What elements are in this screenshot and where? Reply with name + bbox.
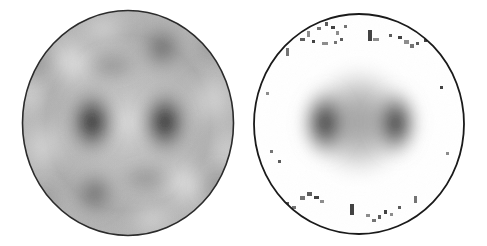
speckle-artifact — [278, 160, 281, 163]
speckle-artifact — [398, 36, 402, 39]
speckle-artifact — [398, 206, 401, 209]
speckle-artifact — [325, 22, 328, 26]
speckle-artifact — [366, 214, 370, 217]
speckle-artifact — [368, 30, 372, 41]
measured-pattern-plot — [243, 0, 487, 246]
speckle-artifact — [378, 215, 381, 219]
speckle-artifact — [372, 219, 376, 222]
speckle-artifact — [322, 42, 328, 45]
speckle-artifact — [314, 196, 319, 199]
speckle-artifact — [410, 44, 414, 48]
speckle-artifact — [416, 42, 419, 45]
grain-overlay — [243, 0, 487, 246]
speckle-artifact — [320, 200, 324, 203]
speckle-artifact — [317, 27, 321, 30]
speckle-artifact — [384, 210, 387, 214]
figure-root — [0, 0, 487, 246]
speckle-artifact — [389, 34, 392, 37]
speckle-artifact — [307, 192, 312, 196]
speckle-artifact — [300, 38, 305, 41]
speckle-artifact — [373, 38, 379, 41]
panel-measured-pattern — [243, 0, 487, 246]
speckle-artifact — [344, 25, 347, 28]
speckle-artifact — [334, 41, 337, 44]
speckle-artifact — [350, 204, 354, 215]
grain-overlay — [0, 0, 244, 246]
speckle-artifact — [340, 38, 343, 41]
speckle-artifact — [300, 196, 305, 200]
speckle-artifact — [414, 196, 417, 203]
speckle-artifact — [286, 48, 289, 56]
speckle-artifact — [440, 86, 443, 89]
speckle-artifact — [331, 26, 335, 29]
speckle-artifact — [404, 40, 409, 44]
speckle-artifact — [312, 40, 315, 43]
speckle-artifact — [266, 92, 269, 95]
speckle-artifact — [336, 31, 339, 35]
simulated-heatmap-body — [0, 0, 244, 246]
speckle-artifact — [446, 152, 449, 155]
measured-heatmap-body — [243, 0, 487, 246]
panel-simulated-pattern — [0, 0, 244, 246]
speckle-artifact — [390, 213, 393, 216]
speckle-artifact — [307, 31, 310, 37]
simulated-pattern-plot — [0, 0, 244, 246]
speckle-artifact — [270, 150, 273, 153]
